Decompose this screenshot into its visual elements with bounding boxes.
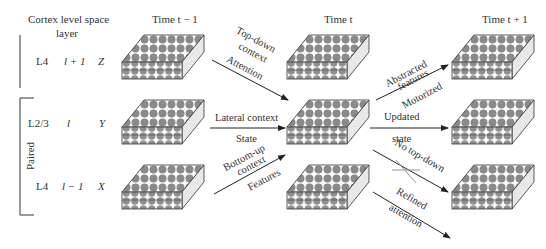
header-time-t-minus-1: Time t − 1 — [152, 13, 198, 25]
header-cortex-level-space: Cortex level space — [28, 13, 109, 25]
block-t-plus-1-middle — [452, 100, 534, 144]
row-middle-space: Y — [99, 117, 105, 129]
row-lower-cortex: L4 — [36, 180, 48, 192]
header-layer: layer — [56, 27, 78, 39]
crossout-2 — [396, 160, 416, 183]
row-upper-level: l + 1 — [64, 55, 85, 67]
block-t-plus-1-lower — [452, 165, 534, 209]
block-t-minus-1-lower — [122, 165, 204, 209]
diagram-canvas — [0, 0, 546, 249]
header-time-t-plus-1: Time t + 1 — [482, 13, 528, 25]
block-t-lower — [287, 165, 369, 209]
row-upper-space: Z — [98, 55, 104, 67]
block-t-minus-1-middle — [122, 100, 204, 144]
label-lateral-context: Lateral context — [215, 112, 278, 123]
block-t-plus-1-upper — [452, 35, 534, 79]
block-t-upper — [287, 35, 369, 79]
row-lower-space: X — [98, 180, 105, 192]
block-t-middle — [287, 100, 369, 144]
row-middle-cortex: L2/3 — [28, 117, 49, 129]
label-updated: Updated — [384, 111, 420, 122]
row-middle-level: l — [67, 117, 70, 129]
row-upper-cortex: L4 — [36, 55, 48, 67]
label-state: State — [236, 133, 257, 144]
block-t-minus-1-upper — [122, 35, 204, 79]
paired-label: Paired — [24, 138, 36, 174]
header-time-t: Time t — [324, 13, 353, 25]
row-lower-level: l − 1 — [62, 180, 83, 192]
